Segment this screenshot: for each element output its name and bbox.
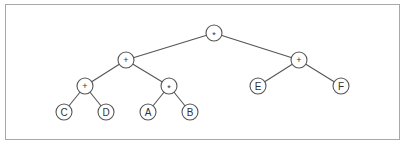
node-label: F bbox=[338, 81, 344, 92]
tree-node-operand-b: B bbox=[182, 104, 198, 120]
tree-edge bbox=[126, 33, 214, 60]
tree-node-operator: + bbox=[118, 52, 134, 68]
node-label: B bbox=[187, 107, 194, 118]
tree-node-operand-d: D bbox=[98, 104, 114, 120]
node-label: + bbox=[82, 81, 87, 91]
tree-node-operand-c: C bbox=[56, 104, 72, 120]
tree-node-operator: * bbox=[206, 25, 222, 41]
tree-node-operator: * bbox=[161, 78, 177, 94]
node-label: + bbox=[123, 55, 128, 65]
tree-node-operator: + bbox=[77, 78, 93, 94]
node-label: D bbox=[102, 107, 109, 118]
expression-tree: *+++*EFCDAB bbox=[0, 0, 406, 147]
node-label: * bbox=[212, 30, 216, 40]
tree-edges bbox=[64, 33, 341, 112]
tree-node-operator: + bbox=[291, 52, 307, 68]
tree-node-operand-a: A bbox=[140, 104, 156, 120]
node-label: A bbox=[145, 107, 152, 118]
node-label: * bbox=[167, 83, 171, 93]
node-label: C bbox=[60, 107, 67, 118]
node-label: E bbox=[255, 81, 262, 92]
tree-node-operand-f: F bbox=[333, 78, 349, 94]
tree-edge bbox=[214, 33, 299, 60]
tree-node-operand-e: E bbox=[250, 78, 266, 94]
tree-nodes: *+++*EFCDAB bbox=[56, 25, 349, 120]
node-label: + bbox=[296, 55, 301, 65]
